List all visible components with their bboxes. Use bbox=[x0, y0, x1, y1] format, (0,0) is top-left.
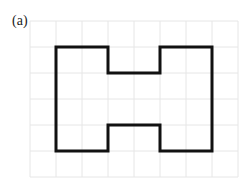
grid-lines bbox=[30, 21, 238, 177]
grid-diagram bbox=[0, 0, 242, 189]
